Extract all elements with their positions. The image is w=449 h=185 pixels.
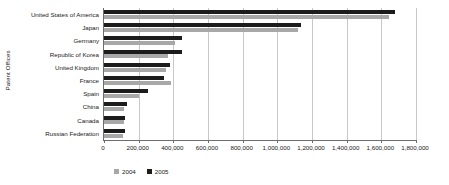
- category-label: Spain: [11, 90, 99, 97]
- category-label: Japan: [11, 24, 99, 31]
- axis-tick: [173, 140, 174, 143]
- x-tick-label: 800,000: [230, 144, 252, 151]
- bar-group: [104, 21, 416, 34]
- category-label: Canada: [11, 117, 99, 124]
- bar-2005: [104, 10, 395, 14]
- plot-area: [103, 8, 416, 141]
- bar-2005: [104, 129, 125, 133]
- axis-tick: [416, 140, 417, 143]
- x-tick-label: 200,000: [126, 144, 148, 151]
- bar-2004: [104, 81, 171, 85]
- axis-tick: [312, 140, 313, 143]
- bar-group: [104, 114, 416, 127]
- axis-tick: [381, 140, 382, 143]
- bar-2004: [104, 120, 124, 124]
- x-tick-label: 400,000: [161, 144, 183, 151]
- bar-group: [104, 34, 416, 47]
- x-tick-label: 600,000: [196, 144, 218, 151]
- category-label: Russian Federation: [11, 130, 99, 137]
- bar-group: [104, 48, 416, 61]
- bar-2005: [104, 36, 182, 40]
- bar-2004: [104, 68, 166, 72]
- axis-tick: [277, 140, 278, 143]
- bar-2005: [104, 102, 127, 106]
- bar-2004: [104, 28, 298, 32]
- x-tick-label: 1,800,000: [401, 144, 429, 151]
- bar-group: [104, 127, 416, 140]
- category-label: United States of America: [11, 11, 99, 18]
- category-label: United Kingdom: [11, 64, 99, 71]
- bar-2004: [104, 134, 123, 138]
- bar-group: [104, 8, 416, 21]
- bar-chart: Patent Offices United States of AmericaJ…: [0, 0, 449, 185]
- bar-2005: [104, 63, 170, 67]
- bar-group: [104, 61, 416, 74]
- axis-tick: [243, 140, 244, 143]
- bar-2005: [104, 116, 125, 120]
- bar-group: [104, 87, 416, 100]
- category-label: Germany: [11, 37, 99, 44]
- axis-tick: [104, 140, 105, 143]
- axis-tick: [139, 140, 140, 143]
- chart-legend: 20042005: [114, 165, 169, 177]
- legend-label: 2004: [122, 168, 136, 175]
- x-tick-label: 1,200,000: [297, 144, 325, 151]
- bar-group: [104, 74, 416, 87]
- category-label: Republic of Korea: [11, 51, 99, 58]
- category-label: France: [11, 77, 99, 84]
- axis-tick: [347, 140, 348, 143]
- bar-2004: [104, 94, 139, 98]
- x-tick-label: 1,400,000: [332, 144, 360, 151]
- bar-2004: [104, 41, 175, 45]
- gridline: [416, 8, 417, 140]
- legend-item[interactable]: 2004: [114, 168, 136, 175]
- y-axis-title-label: Patent Offices: [4, 50, 11, 90]
- x-tick-label: 0: [101, 144, 104, 151]
- x-tick-label: 1,600,000: [367, 144, 395, 151]
- bar-2005: [104, 89, 148, 93]
- bar-group: [104, 100, 416, 113]
- axis-tick: [208, 140, 209, 143]
- x-axis-tick-labels: 0200,000400,000600,000800,0001,000,0001,…: [0, 144, 449, 156]
- legend-swatch-2005: [147, 169, 152, 174]
- category-label: China: [11, 103, 99, 110]
- bar-2005: [104, 23, 301, 27]
- x-tick-label: 1,000,000: [263, 144, 291, 151]
- bar-2004: [104, 15, 389, 19]
- bar-2004: [104, 107, 124, 111]
- legend-item[interactable]: 2005: [147, 168, 169, 175]
- legend-swatch-2004: [114, 169, 119, 174]
- bar-2005: [104, 76, 164, 80]
- category-axis-labels: United States of AmericaJapanGermanyRepu…: [12, 8, 101, 140]
- legend-label: 2005: [155, 168, 169, 175]
- bar-2004: [104, 54, 168, 58]
- bar-2005: [104, 50, 182, 54]
